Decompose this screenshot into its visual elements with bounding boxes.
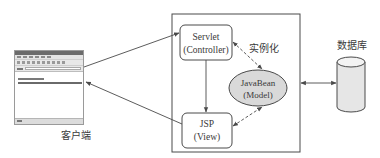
javabean-model-node: JavaBean (Model) <box>229 70 287 106</box>
client-label: 客户端 <box>61 129 91 141</box>
instantiate-label: 实例化 <box>249 42 279 54</box>
database-label: 数据库 <box>337 39 367 51</box>
edge-jsp-to-client <box>86 82 182 124</box>
javabean-label: JavaBean <box>241 78 276 88</box>
jsp-view-node: JSP (View) <box>182 113 232 148</box>
controller-label: (Controller) <box>183 45 228 56</box>
mvc-diagram: 客户端 Servlet (Controller) JSP (View) Java… <box>0 0 380 158</box>
servlet-controller-node: Servlet (Controller) <box>180 25 232 60</box>
servlet-label: Servlet <box>193 32 220 42</box>
model-label: (Model) <box>243 90 273 100</box>
jsp-label: JSP <box>200 119 214 129</box>
view-label: (View) <box>194 132 220 143</box>
database-node <box>337 57 365 112</box>
edge-jsp-model-dashed <box>233 107 262 126</box>
edge-client-to-servlet <box>84 33 179 67</box>
